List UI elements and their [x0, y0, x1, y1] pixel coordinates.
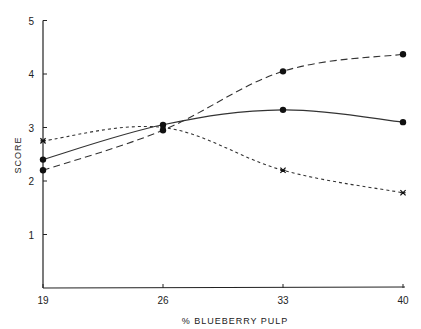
data-point-circle — [40, 156, 46, 162]
data-point-circle — [400, 51, 406, 57]
y-axis-title: SCORE — [13, 136, 23, 173]
series-short-dash — [40, 125, 405, 195]
data-point-circle — [400, 119, 406, 125]
series-group — [40, 51, 406, 195]
x-tick-label: 33 — [277, 295, 289, 306]
x-axis — [43, 287, 405, 288]
line-chart: 1234519263340% BLUEBERRY PULPSCORE — [0, 0, 421, 329]
y-tick-label: 3 — [28, 123, 34, 134]
series-solid — [40, 107, 406, 163]
x-tick-label: 40 — [397, 295, 409, 306]
x-tick-label: 26 — [157, 295, 169, 306]
series-long-dash — [40, 51, 406, 173]
y-tick-label: 4 — [28, 69, 34, 80]
data-point-circle — [40, 167, 46, 173]
series-line — [43, 110, 403, 160]
x-tick-label: 19 — [37, 295, 49, 306]
y-tick-label: 2 — [28, 176, 34, 187]
axes — [43, 21, 405, 289]
data-point-x-marker — [280, 168, 285, 173]
y-tick-label: 1 — [28, 230, 34, 241]
data-point-circle — [280, 107, 286, 113]
x-axis-title: % BLUEBERRY PULP — [182, 316, 289, 326]
series-line — [43, 54, 403, 170]
axis-labels: 1234519263340% BLUEBERRY PULPSCORE — [13, 16, 409, 327]
y-tick-label: 5 — [28, 16, 34, 27]
data-point-x-marker — [400, 190, 405, 195]
data-point-circle — [280, 68, 286, 74]
series-line — [43, 126, 403, 192]
